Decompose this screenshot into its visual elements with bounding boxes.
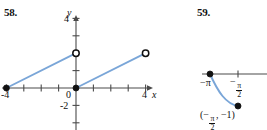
open-endpoint-4-2 <box>142 50 148 56</box>
pi-over-2-fraction: π2 <box>236 82 242 99</box>
x-tick-label-neg-pi-half-59: −π2 <box>230 77 243 99</box>
y-tick-label-4-58: 4 <box>64 14 69 24</box>
closed-endpoint-neg-pi-half-59 <box>235 103 241 109</box>
x-tick-label-neg-pi-59: −π <box>200 78 211 88</box>
point-annotation-59: (−π2, −1) <box>200 110 235 130</box>
fraction-denominator: 2 <box>210 124 216 130</box>
pi-over-2-fraction: π2 <box>209 115 215 130</box>
segment-left-58 <box>6 53 76 88</box>
origin-label-58: 0 <box>66 90 71 100</box>
pi-symbol: π <box>206 77 211 88</box>
closed-endpoint-0-0 <box>73 85 79 91</box>
figure-58: 58. <box>0 0 160 130</box>
x-tick-label-neg4-58: -4 <box>1 90 9 100</box>
x-axis-label-58: x <box>152 90 156 100</box>
minus-sign: − <box>230 76 236 87</box>
annotation-tail: , −1) <box>216 109 235 120</box>
fraction-denominator: 2 <box>236 91 242 99</box>
figure-58-plot <box>0 0 160 130</box>
open-endpoint-0-2 <box>73 50 79 56</box>
figure-59: 59. −π −π2 (−π2, −1) <box>160 0 267 130</box>
x-tick-label-4-58: 4 <box>142 90 147 100</box>
y-tick-label-neg2-58: -2 <box>60 101 68 111</box>
annotation-open-paren: (− <box>200 109 209 120</box>
segment-right-58 <box>76 53 146 88</box>
